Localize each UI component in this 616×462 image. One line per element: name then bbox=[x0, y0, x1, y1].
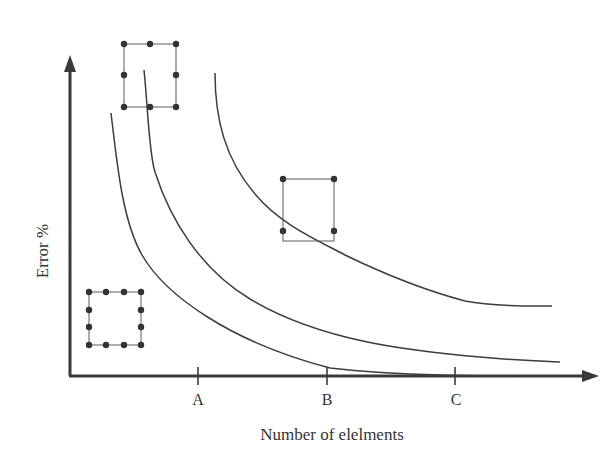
curve-8-node-element bbox=[144, 70, 560, 362]
x-tick-label-c: C bbox=[451, 391, 462, 408]
x-tick-label-b: B bbox=[322, 391, 333, 408]
x-axis-arrow-icon bbox=[582, 370, 599, 382]
convergence-diagram: A B C Number of elelments Error % bbox=[0, 0, 616, 462]
12-node-element-icon bbox=[86, 289, 144, 348]
y-axis bbox=[64, 55, 76, 376]
x-axis-title: Number of elelments bbox=[260, 425, 404, 444]
8-node-element-icon bbox=[121, 41, 179, 110]
curve-12-node-element bbox=[111, 113, 560, 376]
y-axis-arrow-icon bbox=[64, 55, 76, 72]
y-axis-title: Error % bbox=[33, 224, 52, 278]
4-node-element-icon bbox=[280, 176, 337, 241]
x-tick-label-a: A bbox=[192, 391, 204, 408]
curve-4-node-element bbox=[215, 73, 552, 306]
